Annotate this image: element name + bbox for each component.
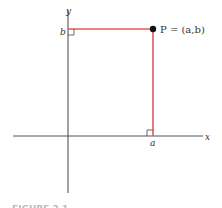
right-angle-marker-b: [68, 29, 74, 35]
x-axis-label: x: [205, 132, 210, 142]
y-axis-label: y: [65, 6, 72, 16]
a-label: a: [150, 138, 155, 148]
right-angle-marker-a: [147, 130, 153, 136]
point-label: P = (a,b): [160, 24, 205, 35]
point-p: [150, 26, 156, 32]
coordinate-diagram: P = (a,b) y x b a FIGURE 2.1: [0, 0, 222, 208]
figure-caption: FIGURE 2.1: [12, 204, 68, 208]
b-label: b: [60, 27, 66, 37]
